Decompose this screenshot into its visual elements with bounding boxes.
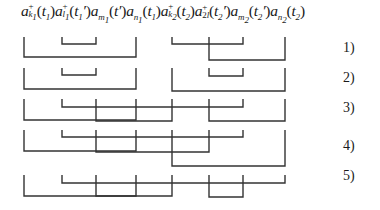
- contraction-bracket: [209, 99, 285, 121]
- contraction-bracket: [172, 130, 285, 166]
- label-contraction-3: 3): [343, 100, 355, 116]
- contraction-row-5: [24, 175, 285, 197]
- contraction-bracket: [24, 130, 136, 151]
- contraction-bracket: [24, 37, 136, 57]
- label-contraction-1: 1): [343, 40, 355, 56]
- label-contraction-5: 5): [343, 168, 355, 184]
- contraction-row-3: [24, 99, 285, 121]
- contraction-bracket: [96, 175, 172, 196]
- contraction-bracket: [24, 99, 136, 120]
- contraction-bracket: [96, 130, 209, 152]
- contraction-bracket: [62, 99, 243, 107]
- contraction-bracket: [209, 68, 243, 76]
- contraction-bracket: [172, 68, 285, 91]
- contraction-bracket: [62, 37, 96, 44]
- contraction-bracket: [172, 37, 243, 44]
- contraction-bracket: [96, 99, 172, 121]
- contraction-bracket: [24, 68, 136, 89]
- contraction-bracket: [209, 175, 243, 197]
- contraction-bracket: [209, 37, 285, 60]
- contraction-row-4: [24, 130, 285, 166]
- label-contraction-2: 2): [343, 70, 355, 86]
- contraction-bracket: [62, 130, 243, 137]
- contraction-diagram: [0, 0, 380, 210]
- contraction-row-2: [24, 68, 285, 91]
- contraction-row-1: [24, 37, 285, 60]
- contraction-bracket: [62, 68, 96, 75]
- contraction-bracket: [24, 175, 136, 196]
- label-contraction-4: 4): [343, 138, 355, 154]
